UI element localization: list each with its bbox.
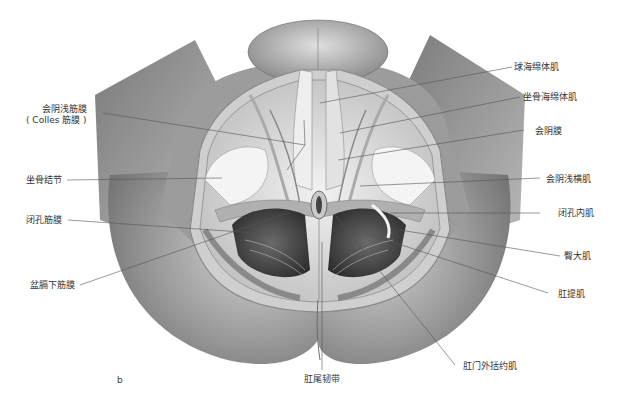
- label-obturator-fascia: 闭孔筋膜: [26, 215, 62, 226]
- panel-letter: b: [117, 375, 123, 385]
- label-superficial-transverse-perineal: 会阴浅横肌: [546, 174, 591, 185]
- label-superficial-perineal-fascia: 会阴浅筋膜 ( Colles 筋膜 ): [26, 104, 87, 126]
- label-inferior-diaphragmatic-fascia: 盆膈下筋膜: [30, 280, 75, 291]
- perineum-illustration: [0, 0, 617, 402]
- label-levator-ani: 肛提肌: [558, 289, 585, 300]
- label-bulbospongiosus: 球海绵体肌: [514, 62, 559, 73]
- label-ischiocavernosus: 坐骨海绵体肌: [523, 92, 577, 103]
- label-anococcygeal-ligament: 肛尾韧带: [304, 374, 340, 385]
- label-gluteus-maximus: 臀大肌: [564, 251, 591, 262]
- anatomy-figure: 会阴浅筋膜 ( Colles 筋膜 ) 坐骨结节 闭孔筋膜 盆膈下筋膜 球海绵体…: [0, 0, 617, 402]
- label-text-secondary: ( Colles 筋膜 ): [26, 115, 87, 126]
- label-perineal-membrane: 会阴膜: [535, 126, 562, 137]
- label-text: 会阴浅筋膜: [26, 104, 87, 115]
- label-obturator-internus: 闭孔内肌: [558, 208, 594, 219]
- label-external-anal-sphincter: 肛门外括约肌: [463, 361, 517, 372]
- label-ischial-tuberosity: 坐骨结节: [26, 175, 62, 186]
